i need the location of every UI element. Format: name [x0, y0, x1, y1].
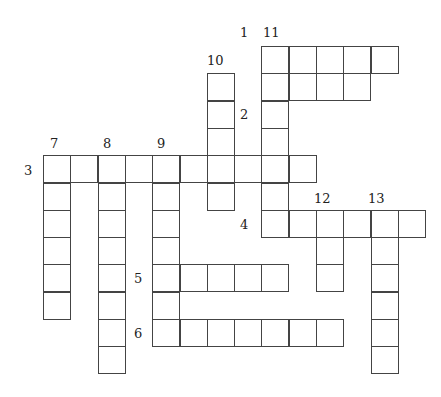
crossword-cell[interactable] [43, 237, 71, 265]
crossword-cell[interactable] [98, 210, 126, 238]
crossword-cell[interactable] [261, 155, 289, 183]
crossword-cell[interactable] [343, 73, 371, 101]
crossword-cell[interactable] [152, 183, 180, 211]
crossword-cell[interactable] [152, 210, 180, 238]
crossword-cell[interactable] [316, 210, 344, 238]
crossword-cell[interactable] [261, 128, 289, 156]
crossword-cell[interactable] [207, 264, 235, 292]
crossword-cell[interactable] [289, 155, 317, 183]
crossword-cell[interactable] [234, 319, 262, 347]
crossword-cell[interactable] [98, 237, 126, 265]
crossword-cell[interactable] [43, 264, 71, 292]
clue-number-label: 13 [368, 192, 385, 205]
clue-number-label: 10 [207, 54, 224, 67]
crossword-cell[interactable] [316, 46, 344, 74]
crossword-cell[interactable] [207, 183, 235, 211]
crossword-cell[interactable] [152, 155, 180, 183]
crossword-cell[interactable] [98, 292, 126, 320]
crossword-cell[interactable] [152, 319, 180, 347]
crossword-cell[interactable] [261, 210, 289, 238]
crossword-cell[interactable] [343, 210, 371, 238]
crossword-cell[interactable] [125, 155, 153, 183]
crossword-cell[interactable] [234, 264, 262, 292]
clue-number-label: 4 [240, 218, 248, 231]
crossword-cell[interactable] [98, 155, 126, 183]
clue-number-label: 3 [24, 164, 32, 177]
crossword-cell[interactable] [289, 210, 317, 238]
crossword-cell[interactable] [371, 346, 399, 374]
crossword-cell[interactable] [180, 264, 208, 292]
crossword-cell[interactable] [207, 128, 235, 156]
crossword-cell[interactable] [207, 319, 235, 347]
crossword-cell[interactable] [98, 264, 126, 292]
crossword-cell[interactable] [316, 264, 344, 292]
crossword-cell[interactable] [398, 210, 426, 238]
crossword-cell[interactable] [180, 155, 208, 183]
clue-number-label: 2 [240, 108, 248, 121]
crossword-cell[interactable] [43, 210, 71, 238]
crossword-cell[interactable] [261, 101, 289, 129]
crossword-cell[interactable] [261, 46, 289, 74]
clue-number-label: 12 [314, 192, 331, 205]
clue-number-label: 1 [240, 26, 248, 39]
crossword-cell[interactable] [371, 237, 399, 265]
crossword-cell[interactable] [316, 237, 344, 265]
clue-number-label: 9 [157, 137, 165, 150]
crossword-cell[interactable] [261, 264, 289, 292]
crossword-board: 12345678910111213 [0, 0, 441, 397]
clue-number-label: 6 [134, 327, 142, 340]
crossword-cell[interactable] [289, 319, 317, 347]
crossword-cell[interactable] [371, 264, 399, 292]
crossword-cell[interactable] [316, 319, 344, 347]
crossword-cell[interactable] [207, 101, 235, 129]
crossword-cell[interactable] [207, 73, 235, 101]
crossword-cell[interactable] [234, 155, 262, 183]
crossword-cell[interactable] [98, 346, 126, 374]
crossword-cell[interactable] [152, 237, 180, 265]
crossword-cell[interactable] [371, 46, 399, 74]
crossword-cell[interactable] [261, 319, 289, 347]
crossword-cell[interactable] [43, 155, 71, 183]
crossword-cell[interactable] [207, 155, 235, 183]
crossword-cell[interactable] [152, 264, 180, 292]
crossword-cell[interactable] [343, 46, 371, 74]
crossword-cell[interactable] [98, 319, 126, 347]
crossword-cell[interactable] [43, 292, 71, 320]
crossword-cell[interactable] [371, 210, 399, 238]
crossword-cell[interactable] [371, 292, 399, 320]
clue-number-label: 8 [103, 137, 111, 150]
clue-number-label: 5 [134, 272, 142, 285]
crossword-cell[interactable] [371, 319, 399, 347]
crossword-cell[interactable] [289, 46, 317, 74]
crossword-cell[interactable] [98, 183, 126, 211]
clue-number-label: 11 [263, 26, 280, 39]
crossword-cell[interactable] [261, 73, 289, 101]
clue-number-label: 7 [50, 137, 58, 150]
crossword-cell[interactable] [180, 319, 208, 347]
crossword-cell[interactable] [43, 183, 71, 211]
crossword-cell[interactable] [70, 155, 98, 183]
crossword-cell[interactable] [261, 183, 289, 211]
crossword-cell[interactable] [316, 73, 344, 101]
crossword-cell[interactable] [289, 73, 317, 101]
crossword-cell[interactable] [152, 292, 180, 320]
